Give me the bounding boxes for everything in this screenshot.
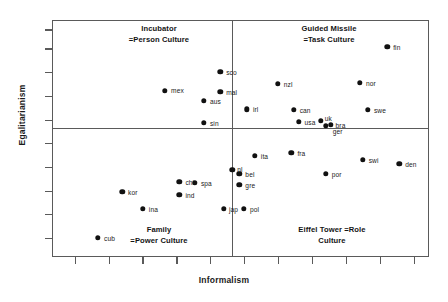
data-point-label-ita: ita xyxy=(261,153,268,160)
data-point-label-ind: ind xyxy=(185,192,194,199)
data-point-label-fin: fin xyxy=(393,44,400,51)
y-axis-tick-9 xyxy=(45,29,52,30)
y-axis-tick-3 xyxy=(45,167,52,168)
y-axis-tick-0 xyxy=(45,238,52,239)
y-axis-tick-1 xyxy=(45,214,52,215)
y-axis-tick-7 xyxy=(45,72,52,73)
x-axis-tick-3 xyxy=(176,257,177,264)
y-axis-tick-6 xyxy=(45,96,52,97)
x-axis-tick-7 xyxy=(312,257,313,264)
data-point-label-pol: pol xyxy=(250,206,259,213)
data-point-label-swe: swe xyxy=(374,107,386,114)
y-axis-tick-2 xyxy=(45,191,52,192)
y-axis-tick-8 xyxy=(45,48,52,49)
x-axis-tick-6 xyxy=(278,257,279,264)
data-point-label-sin: sin xyxy=(210,120,219,127)
data-point-label-jap: jap xyxy=(229,206,238,213)
data-point-label-gre: gre xyxy=(245,182,255,189)
data-point-label-mal: mal xyxy=(226,89,237,96)
x-axis-tick-10 xyxy=(414,257,415,264)
data-point-label-bel: bel xyxy=(245,171,254,178)
data-point-label-nzl: nzl xyxy=(284,81,293,88)
data-point-label-por: por xyxy=(332,171,342,178)
data-point-label-can: can xyxy=(300,107,311,114)
x-axis-tick-8 xyxy=(346,257,347,264)
x-axis-tick-0 xyxy=(75,257,76,264)
x-axis-tick-1 xyxy=(109,257,110,264)
data-point-label-kor: kor xyxy=(128,189,137,196)
quadrant-label-incubator: Incubator =Person Culture xyxy=(94,24,224,45)
data-point-label-swi: swi xyxy=(369,157,379,164)
quadrant-label-guided-missile: Guided Missile =Task Culture xyxy=(264,24,394,45)
data-point-label-nor: nor xyxy=(366,80,376,87)
chart-canvas: Egalitarianism Informalism Incubator =Pe… xyxy=(0,0,448,302)
data-point-label-mex: mex xyxy=(171,87,184,94)
quadrant-divider-vertical xyxy=(232,20,233,257)
data-point-label-usa: usa xyxy=(305,119,316,126)
data-point-label-ger: ger xyxy=(333,128,343,135)
y-axis-tick-5 xyxy=(45,120,52,121)
x-axis-tick-2 xyxy=(142,257,143,264)
x-axis-tick-9 xyxy=(380,257,381,264)
y-axis-label: Egalitarianism xyxy=(17,55,27,175)
data-point-label-sco: sco xyxy=(226,69,237,76)
y-axis-tick-4 xyxy=(45,143,52,144)
data-point-label-aus: aus xyxy=(210,98,221,105)
data-point-label-uk: uk xyxy=(325,115,332,122)
data-point-label-fra: fra xyxy=(297,150,305,157)
x-axis-tick-5 xyxy=(244,257,245,264)
quadrant-label-eiffel-tower: Eiffel Tower =Role Culture xyxy=(258,225,406,246)
data-point-label-den: den xyxy=(405,161,416,168)
data-point-label-spa: spa xyxy=(201,180,212,187)
quadrant-divider-horizontal xyxy=(52,128,429,129)
x-axis-label: Informalism xyxy=(0,275,448,285)
x-axis-tick-4 xyxy=(210,257,211,264)
plot-frame xyxy=(52,20,429,257)
data-point-label-irl: irl xyxy=(253,106,258,113)
data-point-label-cub: cub xyxy=(104,235,115,242)
data-point-label-ina: ina xyxy=(149,206,158,213)
